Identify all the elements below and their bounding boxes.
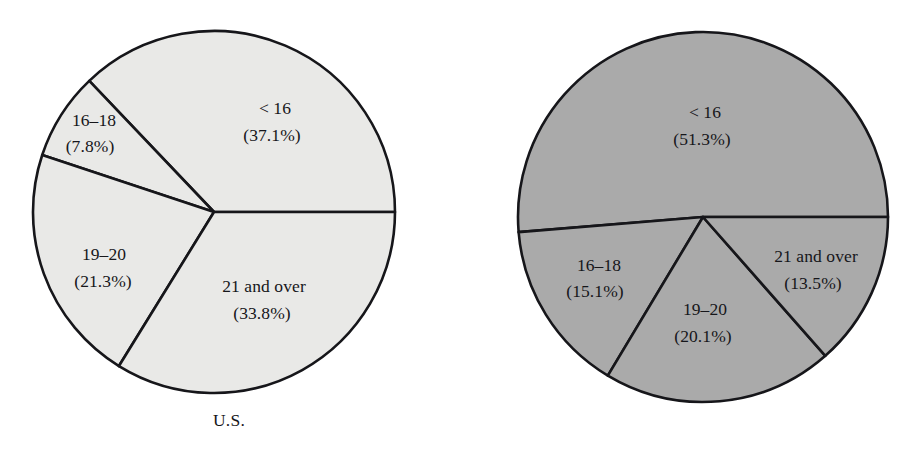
slice-label-name: < 16: [689, 102, 721, 122]
slice-label-percent: (21.3%): [74, 271, 132, 291]
slice-label-percent: (15.1%): [566, 281, 624, 301]
slice-label-name: < 16: [259, 98, 291, 118]
slice-label-percent: (20.1%): [674, 326, 732, 346]
slice-label-name: 21 and over: [774, 246, 858, 266]
slice-label-percent: (33.8%): [233, 303, 291, 323]
pie-svg-us: < 16(37.1%)16–18(7.8%)19–20(21.3%)21 and…: [0, 0, 458, 457]
slice-label-percent: (37.1%): [243, 125, 301, 145]
slice-label-name: 19–20: [82, 244, 126, 264]
slice-label-name: 21 and over: [222, 276, 306, 296]
pie-chart-state: < 16(51.3%)16–18(15.1%)19–20(20.1%)21 an…: [459, 0, 917, 457]
slice-label-name: 19–20: [683, 299, 727, 319]
slice-label-name: 16–18: [72, 110, 116, 130]
chart-caption-us: U.S.: [0, 410, 458, 431]
slice-label-name: 16–18: [577, 255, 621, 275]
pie-chart-figure: < 16(37.1%)16–18(7.8%)19–20(21.3%)21 and…: [0, 0, 917, 457]
pie-slices: [33, 31, 395, 393]
slice-label-percent: (7.8%): [66, 136, 115, 156]
pie-chart-us: < 16(37.1%)16–18(7.8%)19–20(21.3%)21 and…: [0, 0, 458, 457]
pie-slices: [518, 32, 888, 402]
slice-label-percent: (51.3%): [673, 129, 731, 149]
pie-svg-state: < 16(51.3%)16–18(15.1%)19–20(20.1%)21 an…: [459, 0, 917, 457]
slice-label-percent: (13.5%): [784, 273, 842, 293]
